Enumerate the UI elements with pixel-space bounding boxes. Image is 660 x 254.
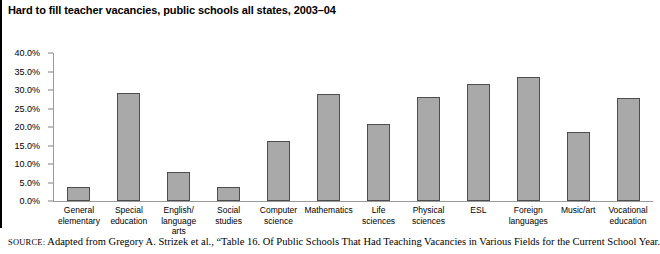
bar-slot xyxy=(204,53,254,201)
x-tick-label: Socialstudies xyxy=(204,205,254,237)
y-axis: 40.0%35.0%30.0%25.0%20.0%15.0%10.0%5.0%0… xyxy=(0,46,48,202)
x-tick-label-line: Foreign xyxy=(504,205,552,216)
x-tick-label-line: education xyxy=(105,216,153,227)
bar-slot xyxy=(553,53,603,201)
x-tick-label-line: ESL xyxy=(454,205,502,216)
bar xyxy=(267,141,290,201)
x-tick-label: Foreignlanguages xyxy=(503,205,553,237)
x-tick-label-line: languages xyxy=(504,216,552,227)
x-axis-labels: GeneralelementarySpecialeducationEnglish… xyxy=(54,205,653,237)
bar xyxy=(367,124,390,201)
y-tick-label: 35.0% xyxy=(14,67,40,76)
x-tick-label: English/language arts xyxy=(154,205,204,237)
bar xyxy=(517,77,540,201)
x-tick-label-line: sciences xyxy=(355,216,403,227)
y-tick-label: 25.0% xyxy=(14,104,40,113)
bar-slot xyxy=(503,53,553,201)
x-tick-label-line: Computer xyxy=(255,205,303,216)
bar xyxy=(217,187,240,201)
bar-series xyxy=(54,53,653,201)
y-tick-label: 10.0% xyxy=(14,160,40,169)
source-text: Adapted from Gregory A. Strizek et al., … xyxy=(45,236,660,247)
source-label: SOURCE: xyxy=(8,237,45,247)
x-tick-label: Music/art xyxy=(553,205,603,237)
x-tick-label-line: elementary xyxy=(55,216,103,227)
bar xyxy=(167,172,190,201)
bar-slot xyxy=(104,53,154,201)
x-tick-label-line: English/ xyxy=(155,205,203,216)
x-axis-line xyxy=(53,201,653,202)
y-tick-label: 30.0% xyxy=(14,86,40,95)
bar-slot xyxy=(354,53,404,201)
bar-slot xyxy=(154,53,204,201)
x-tick-label: Mathematics xyxy=(303,205,353,237)
bar xyxy=(617,98,640,201)
bar-slot xyxy=(403,53,453,201)
bar-slot xyxy=(54,53,104,201)
bar xyxy=(417,97,440,201)
x-tick-label: Physicalsciences xyxy=(404,205,454,237)
x-tick-label: Specialeducation xyxy=(104,205,154,237)
bar xyxy=(117,93,140,201)
x-tick-label-line: Vocational xyxy=(604,205,652,216)
bar xyxy=(567,132,590,201)
bar-slot xyxy=(603,53,653,201)
x-tick-label-line: General xyxy=(55,205,103,216)
x-tick-label-line: studies xyxy=(205,216,253,227)
chart-title: Hard to fill teacher vacancies, public s… xyxy=(8,4,336,16)
x-tick-label: ESL xyxy=(453,205,503,237)
x-tick-label-line: Special xyxy=(105,205,153,216)
x-tick-label-line: science xyxy=(255,216,303,227)
bar-slot xyxy=(453,53,503,201)
y-tick-label: 5.0% xyxy=(19,178,40,187)
y-tick-label: 0.0% xyxy=(19,197,40,206)
x-tick-label-line: sciences xyxy=(405,216,453,227)
y-tick-label: 40.0% xyxy=(14,49,40,58)
x-tick-label: Vocationaleducation xyxy=(603,205,653,237)
x-tick-label-line: Social xyxy=(205,205,253,216)
x-tick-label-line: language arts xyxy=(155,216,203,237)
bar xyxy=(317,94,340,201)
source-note: SOURCE: Adapted from Gregory A. Strizek … xyxy=(8,236,657,248)
bar-slot xyxy=(254,53,304,201)
x-tick-label: Computerscience xyxy=(254,205,304,237)
x-tick-label: Generalelementary xyxy=(54,205,104,237)
chart-plot-area: 40.0%35.0%30.0%25.0%20.0%15.0%10.0%5.0%0… xyxy=(0,46,659,232)
x-tick-label-line: Life xyxy=(355,205,403,216)
y-tick-label: 20.0% xyxy=(14,123,40,132)
bar xyxy=(67,187,90,201)
y-tick-label: 15.0% xyxy=(14,141,40,150)
x-tick-label-line: Physical xyxy=(405,205,453,216)
bar-slot xyxy=(304,53,354,201)
bar xyxy=(467,84,490,201)
x-tick-label-line: Music/art xyxy=(554,205,602,216)
x-tick-label-line: education xyxy=(604,216,652,227)
x-tick-label-line: Mathematics xyxy=(304,205,352,216)
x-tick-label: Lifesciences xyxy=(354,205,404,237)
